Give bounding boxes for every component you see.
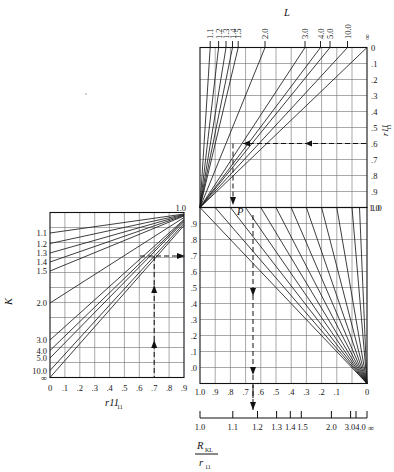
x-tick-label: .2 (318, 387, 324, 397)
x-tick-label: 0 (48, 383, 52, 393)
y-tick-label: .4 (371, 107, 378, 117)
y-tick-label: .3 (371, 91, 377, 101)
ratio-numerator: R (196, 440, 204, 451)
l-tick-label: 2.0 (260, 28, 270, 39)
k-tick-label: 1.2 (36, 239, 47, 249)
y-tick-label: .8 (191, 235, 197, 245)
ratio-numerator-sub: KL (205, 447, 213, 453)
l-tick-label: 1.5 (233, 28, 243, 39)
y-tick-label: 1.0 (175, 203, 186, 213)
nomograph-svg: 1.1 1.2 1.3 1.4 1.5 2.0 3.0 4.0 5.0 10.0… (0, 0, 394, 472)
x-tick-label: .2 (77, 383, 83, 393)
ratio-tick-label: 1.4 (285, 422, 296, 432)
x-tick-label: .6 (136, 383, 142, 393)
x-tick-label: .3 (92, 383, 98, 393)
y-tick-label: .0 (191, 363, 197, 373)
l-tick-label-infinity: ∞ (362, 34, 372, 40)
y-tick-label: 0 (371, 43, 375, 53)
ratio-tick-label: 1.5 (297, 422, 308, 432)
point-p-label: P (236, 206, 244, 217)
x-tick-label: .5 (273, 387, 279, 397)
l-tick-label: 5.0 (325, 28, 335, 39)
ratio-tick-label: 1.2 (252, 422, 263, 432)
y-tick-label: .9 (371, 187, 377, 197)
ratio-tick-label-infinity: ∞ (368, 423, 374, 433)
ratio-tick-label: 2.0 (326, 422, 337, 432)
page-speck (85, 93, 87, 95)
l-tick-label: 3.0 (300, 28, 310, 39)
l-tick-label: 10.0 (343, 24, 353, 39)
y-tick-label: .3 (191, 315, 197, 325)
k-tick-label: 2.0 (36, 298, 47, 308)
x-tick-label: .9 (181, 383, 187, 393)
y-tick-label: .9 (191, 219, 197, 229)
y-tick-label: .1 (191, 347, 197, 357)
k-tick-label: 1.5 (36, 266, 47, 276)
x-tick-label: .6 (258, 387, 264, 397)
k-axis-title: K (3, 297, 14, 306)
y-tick-label: .2 (371, 75, 377, 85)
y-tick-label: .7 (191, 251, 197, 261)
x-tick-label: .7 (151, 383, 157, 393)
x-tick-label: 0 (365, 387, 369, 397)
x-tick-label: .7 (242, 387, 248, 397)
y-tick-label: .4 (191, 299, 198, 309)
k-tick-label: 5.0 (36, 353, 47, 363)
y-tick-label: .1 (371, 59, 377, 69)
lower-right-y-labels: 1.0 (371, 203, 382, 213)
y-tick-label: .5 (191, 283, 197, 293)
y-tick-label: 1.0 (371, 203, 382, 213)
ratio-tick-label: 1.1 (227, 422, 238, 432)
x-tick-label: .5 (121, 383, 127, 393)
k-tick-label: 1.1 (36, 228, 47, 238)
r11-subscript-left: 11 (117, 404, 123, 410)
ratio-tick-label: 1.0 (195, 422, 206, 432)
x-tick-label: .1 (334, 387, 340, 397)
nomograph-figure: 1.1 1.2 1.3 1.4 1.5 2.0 3.0 4.0 5.0 10.0… (0, 0, 394, 472)
y-tick-label: .5 (371, 123, 377, 133)
x-tick-label: .8 (166, 383, 172, 393)
r11-subscript-right: 11 (386, 124, 392, 130)
ratio-tick-label: 4.0 (355, 422, 366, 432)
x-tick-label: .1 (62, 383, 68, 393)
x-tick-label: .9 (212, 387, 218, 397)
x-tick-label: .3 (303, 387, 309, 397)
page-background (0, 0, 394, 472)
ratio-denominator-sub: 11 (205, 464, 211, 470)
k-tick-label-infinity: ∞ (41, 373, 47, 383)
l-axis-title: L (283, 7, 290, 18)
ratio-tick-label: 1.3 (271, 422, 282, 432)
y-tick-label: .7 (371, 155, 377, 165)
k-tick-label: 3.0 (36, 335, 47, 345)
y-tick-label: .6 (371, 139, 377, 149)
x-tick-label: .8 (227, 387, 233, 397)
l-tick-label: 4.0 (316, 28, 326, 39)
x-tick-label: .4 (106, 383, 113, 393)
y-tick-label: .6 (191, 267, 197, 277)
y-tick-label: .2 (191, 331, 197, 341)
ratio-tick-label: 3.0 (345, 422, 356, 432)
y-tick-label: .8 (371, 171, 377, 181)
x-tick-label: .4 (288, 387, 295, 397)
x-tick-label: 1.0 (195, 387, 206, 397)
